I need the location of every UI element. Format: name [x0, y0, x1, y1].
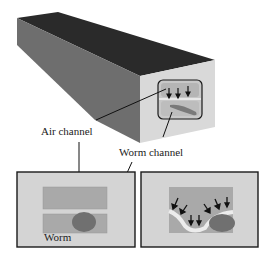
- worm-label: Worm: [44, 231, 71, 243]
- device-block: [17, 12, 215, 143]
- air-channel-section: [43, 187, 107, 209]
- worm-channel-label: Worm channel: [119, 146, 183, 158]
- cross-section-panel-left: [17, 172, 135, 247]
- worm-trapped-icon: [209, 214, 235, 232]
- air-channel-label: Air channel: [41, 125, 93, 137]
- cross-section-panel-right: [141, 172, 258, 247]
- worm-section-icon: [72, 212, 96, 232]
